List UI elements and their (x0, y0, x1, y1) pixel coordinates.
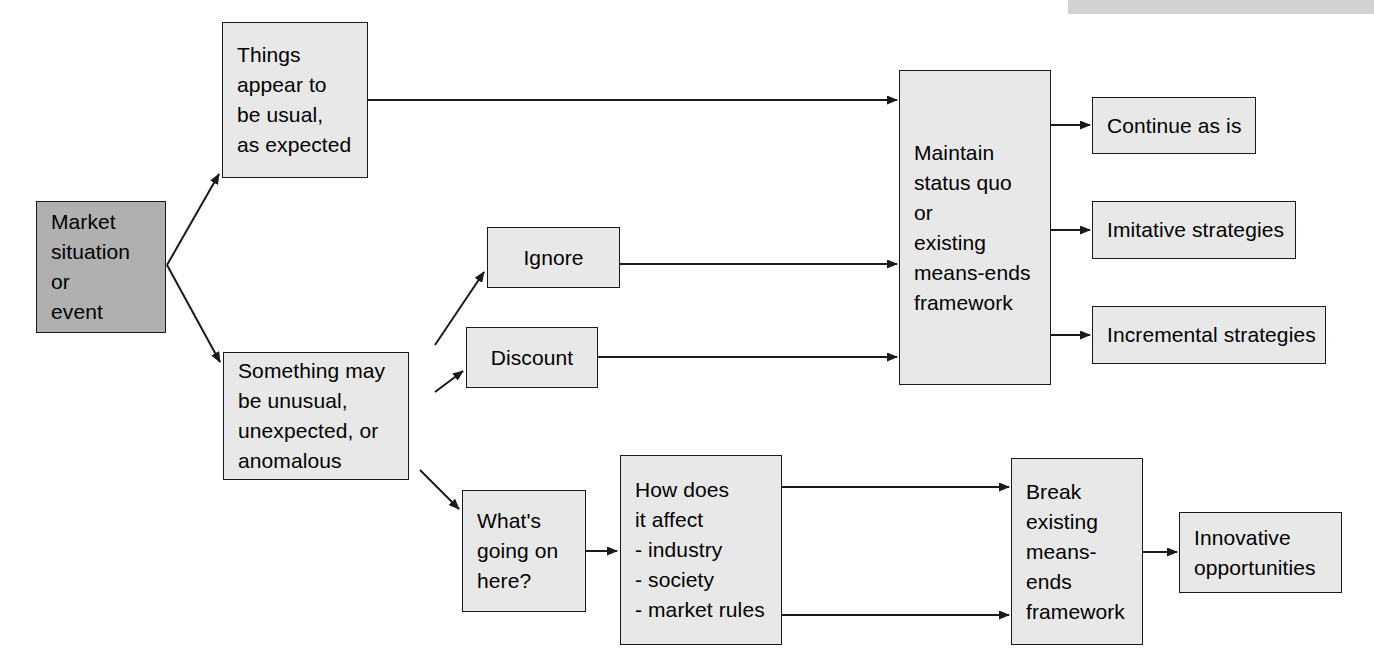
node-continue-as-is[interactable]: Continue as is (1092, 97, 1256, 154)
node-market-situation[interactable]: Market situation or event (36, 201, 166, 333)
edge-something-to-discount (435, 371, 463, 392)
edge-market-to-something (167, 265, 220, 362)
node-incremental-strategies[interactable]: Incremental strategies (1092, 306, 1326, 364)
flowchart-canvas: Market situation or event Things appear … (0, 0, 1374, 670)
node-things-appear-usual[interactable]: Things appear to be usual, as expected (222, 22, 368, 178)
top-gray-strip (1068, 0, 1374, 14)
node-whats-going-on[interactable]: What's going on here? (462, 490, 586, 612)
edge-market-to-things (167, 174, 219, 265)
edge-something-to-whats (420, 470, 459, 509)
node-break-existing-framework[interactable]: Break existing means- ends framework (1011, 458, 1143, 645)
node-discount[interactable]: Discount (466, 327, 598, 388)
node-ignore[interactable]: Ignore (487, 227, 620, 288)
node-something-unusual[interactable]: Something may be unusual, unexpected, or… (223, 352, 409, 480)
node-innovative-opportunities[interactable]: Innovative opportunities (1179, 512, 1342, 593)
node-how-does-it-affect[interactable]: How does it affect - industry - society … (620, 455, 782, 645)
node-imitative-strategies[interactable]: Imitative strategies (1092, 201, 1296, 259)
node-maintain-status-quo[interactable]: Maintain status quo or existing means-en… (899, 70, 1051, 385)
